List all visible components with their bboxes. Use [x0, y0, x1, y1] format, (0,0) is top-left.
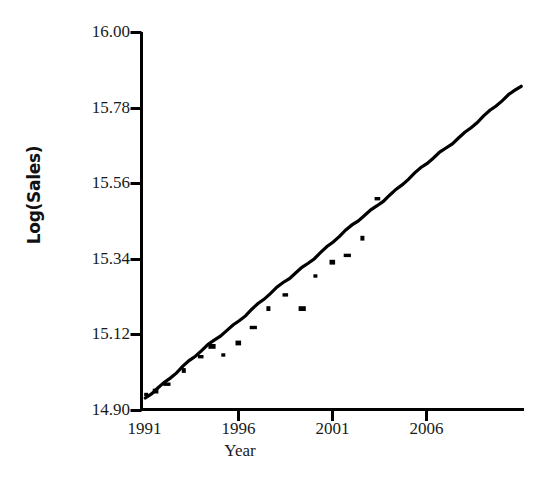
- data-point-marker: [163, 383, 170, 386]
- data-point-marker: [153, 389, 159, 394]
- data-point-marker: [182, 368, 186, 373]
- data-point-marker: [236, 341, 242, 346]
- data-point-marker: [221, 353, 225, 356]
- chart-figure: Log(Sales) 14.9015.1215.3415.5615.7816.0…: [0, 0, 542, 482]
- plot-area: [0, 0, 542, 482]
- x-axis-title: Year: [0, 441, 542, 461]
- data-point-marker: [144, 393, 148, 396]
- y-axis-ticks: [131, 33, 142, 411]
- data-point-marker: [375, 197, 381, 200]
- x-tick-label: 1996: [204, 419, 274, 439]
- data-point-marker: [283, 293, 289, 296]
- data-point-marker: [266, 306, 270, 311]
- x-tick-label: 1991: [110, 419, 180, 439]
- data-point-marker: [250, 326, 257, 329]
- data-point-marker: [344, 254, 351, 257]
- data-point-marker: [198, 355, 204, 358]
- x-axis-title-text: Year: [224, 441, 255, 460]
- data-point-marker: [299, 306, 306, 311]
- data-point-marker: [313, 274, 317, 277]
- trend-line: [145, 86, 521, 398]
- data-point-marker: [360, 236, 364, 241]
- data-markers: [144, 197, 380, 396]
- x-tick-label: 2006: [392, 419, 462, 439]
- x-tick-label: 2001: [298, 419, 368, 439]
- data-point-marker: [208, 344, 215, 349]
- data-point-marker: [330, 260, 336, 265]
